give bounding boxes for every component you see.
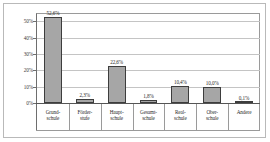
- x-axis-category[interactable]: Grund-schule: [37, 104, 69, 122]
- x-axis-category[interactable]: Ober-schule: [196, 104, 228, 122]
- bar[interactable]: [140, 100, 158, 103]
- category-separator: [69, 104, 70, 131]
- y-axis-tick-mark: [33, 38, 36, 39]
- y-axis-tick-label: 50%: [5, 18, 33, 24]
- category-separator: [101, 104, 102, 131]
- y-axis-tick-label: 30%: [5, 51, 33, 57]
- bar[interactable]: [203, 87, 221, 103]
- x-axis-category[interactable]: Andere: [228, 104, 260, 115]
- y-axis-tick-mark: [33, 70, 36, 71]
- category-label-line: Andere: [228, 109, 260, 115]
- bar[interactable]: [44, 17, 62, 103]
- y-axis: 0%10%20%30%40%50%: [0, 0, 33, 142]
- bar[interactable]: [171, 86, 189, 103]
- category-label-line: schule: [101, 115, 133, 121]
- category-label-line: schule: [164, 115, 196, 121]
- category-separator: [133, 104, 134, 131]
- y-axis-tick-label: 0%: [5, 100, 33, 106]
- bar[interactable]: [108, 66, 126, 103]
- bar[interactable]: [235, 101, 253, 103]
- bar-column: [140, 13, 158, 103]
- bar-column: [235, 13, 253, 103]
- x-axis-category[interactable]: Gesamt-schule: [133, 104, 165, 122]
- bar-column: [203, 13, 221, 103]
- bar-column: [108, 13, 126, 103]
- category-separator: [228, 104, 229, 131]
- category-separator: [196, 104, 197, 131]
- category-label-line: schule: [37, 115, 69, 121]
- bar-value-label: 22,6%: [110, 59, 123, 65]
- x-axis-category[interactable]: Real-schule: [164, 104, 196, 122]
- category-separator: [164, 104, 165, 131]
- chart-screenshot: 0%10%20%30%40%50% 52,6%2,3%22,6%1,8%10,4…: [0, 0, 270, 142]
- bar-value-label: 10,0%: [206, 80, 219, 86]
- x-axis-category-labels: Grund-schuleFörder-stufeHaupt-schuleGesa…: [37, 104, 260, 132]
- bar-column: [171, 13, 189, 103]
- category-label-line: stufe: [69, 115, 101, 121]
- y-axis-tick-label: 10%: [5, 84, 33, 90]
- category-label-line: schule: [196, 115, 228, 121]
- y-axis-tick-label: 40%: [5, 35, 33, 41]
- bar-column: [76, 13, 94, 103]
- bar-column: [44, 13, 62, 103]
- y-axis-tick-mark: [33, 87, 36, 88]
- y-axis-tick-mark: [33, 21, 36, 22]
- bar[interactable]: [76, 99, 94, 103]
- bar-series: 52,6%2,3%22,6%1,8%10,4%10,0%0,1%: [37, 13, 260, 103]
- bar-value-label: 0,1%: [239, 95, 249, 101]
- x-axis-category[interactable]: Förder-stufe: [69, 104, 101, 122]
- category-label-line: schule: [133, 115, 165, 121]
- bar-value-label: 10,4%: [174, 79, 187, 85]
- x-axis-category[interactable]: Haupt-schule: [101, 104, 133, 122]
- bar-value-label: 1,8%: [143, 93, 153, 99]
- y-axis-tick-label: 20%: [5, 67, 33, 73]
- bar-value-label: 2,3%: [80, 92, 90, 98]
- bar-value-label: 52,6%: [46, 10, 59, 16]
- y-axis-tick-mark: [33, 54, 36, 55]
